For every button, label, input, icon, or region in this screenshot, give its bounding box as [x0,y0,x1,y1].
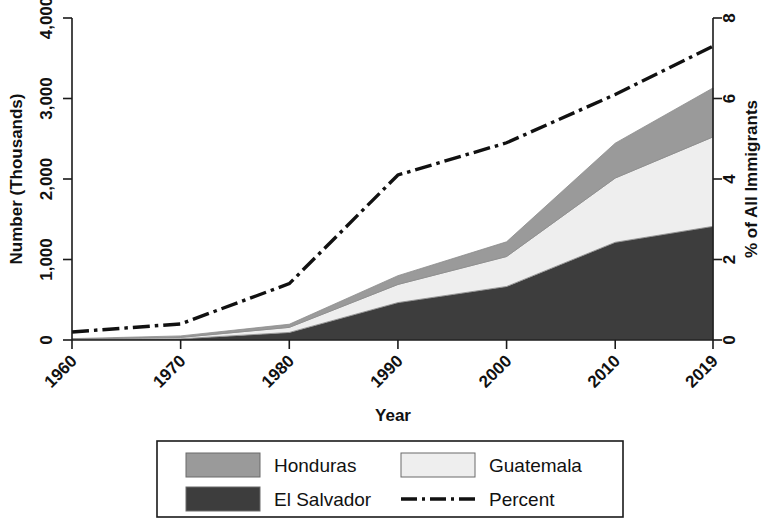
legend-swatch-guatemala [401,453,475,477]
legend-swatch-honduras [186,453,260,477]
chart-svg: 01,0002,0003,0004,000 02468 196019701980… [0,0,773,521]
legend-label-el-salvador: El Salvador [274,489,372,510]
y2-tick-label: 0 [720,335,739,344]
y-tick-label: 2,000 [37,158,56,201]
y2-tick-label: 8 [720,13,739,22]
y2-tick-label: 4 [720,174,739,184]
y-axis-title: Number (Thousands) [7,94,26,265]
y2-tick-label: 2 [720,255,739,264]
legend-label-percent: Percent [489,489,555,510]
y2-axis-title: % of All Immigrants [742,100,761,258]
y-tick-label: 1,000 [37,238,56,281]
y-tick-label: 3,000 [37,77,56,120]
chart-figure: 01,0002,0003,0004,000 02468 196019701980… [0,0,773,521]
legend-swatch-el-salvador [186,487,260,511]
y2-tick-label: 6 [720,94,739,103]
y-tick-label: 0 [37,335,56,344]
chart-legend: Honduras Guatemala El Salvador Percent [157,441,623,517]
legend-label-guatemala: Guatemala [489,455,582,476]
legend-label-honduras: Honduras [274,455,356,476]
y-tick-label: 4,000 [37,0,56,39]
x-axis-title: Year [375,406,411,425]
